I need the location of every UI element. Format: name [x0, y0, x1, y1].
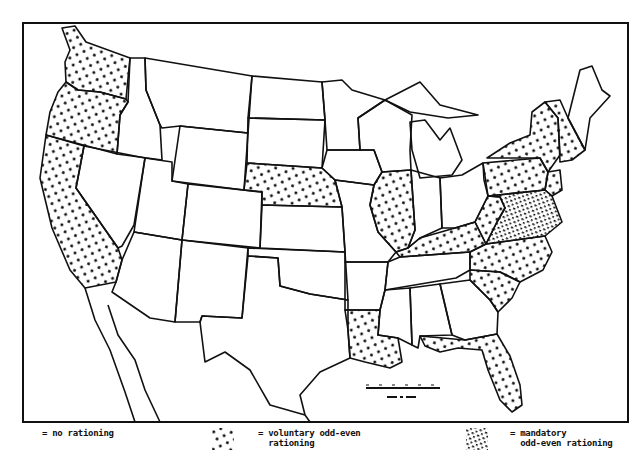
- state-texas: [200, 256, 350, 415]
- us-map-svg: [0, 0, 644, 475]
- state-south-dakota: [247, 118, 325, 168]
- state-michigan-upper: [385, 82, 478, 118]
- state-new-mexico: [175, 240, 248, 322]
- voluntary-swatch: [212, 428, 234, 450]
- state-michigan: [410, 120, 462, 178]
- state-nebraska: [244, 163, 342, 207]
- state-tennessee: [385, 252, 470, 290]
- legend-label-mandatory-2: odd-even rationing: [510, 438, 612, 449]
- state-louisiana: [345, 310, 402, 368]
- state-florida: [420, 334, 522, 412]
- mandatory-swatch: [466, 428, 488, 450]
- state-north-dakota: [248, 76, 325, 120]
- state-utah: [134, 158, 188, 240]
- baja-california-outline: [85, 288, 135, 422]
- legend-label-voluntary-2: rationing: [258, 438, 314, 449]
- state-colorado: [182, 184, 262, 248]
- mexico-gulf-outline: [108, 305, 160, 422]
- state-kansas: [260, 205, 345, 252]
- state-illinois: [370, 170, 415, 252]
- state-mississippi: [378, 288, 412, 345]
- state-montana: [145, 58, 252, 133]
- state-wisconsin: [358, 100, 412, 172]
- scale-bar: [366, 385, 440, 398]
- state-oklahoma: [248, 248, 348, 300]
- legend-label-no-rationing: = no rationing: [42, 428, 114, 439]
- state-minnesota: [322, 80, 385, 150]
- mexico-east-outline: [305, 415, 310, 422]
- rationing-map: [0, 0, 644, 475]
- state-wyoming: [172, 126, 248, 190]
